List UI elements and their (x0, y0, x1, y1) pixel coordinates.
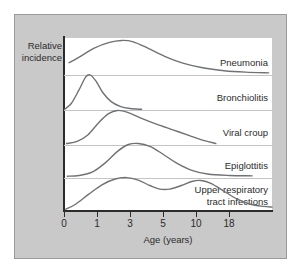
x-axis-label: Age (years) (64, 234, 272, 245)
x-tick-mark (163, 212, 164, 217)
band-separator (64, 178, 272, 179)
series-label: Viral croup (150, 127, 268, 139)
y-axis-line (63, 36, 65, 212)
x-tick-label: 3 (120, 218, 140, 229)
x-tick-mark (196, 212, 197, 217)
band-separator (64, 75, 272, 76)
series-label: Bronchiolitis (150, 92, 268, 104)
series-label: Upper respiratorytract infections (150, 184, 268, 207)
y-axis-label-line2: incidence (16, 52, 62, 64)
y-axis-label-line1: Relative (16, 40, 62, 52)
x-tick-mark (229, 212, 230, 217)
x-tick-label: 10 (186, 218, 206, 229)
series-label: Epiglottitis (150, 160, 268, 172)
x-tick-label: 18 (219, 218, 239, 229)
series-label-line1: Upper respiratory (150, 184, 268, 196)
x-tick-label: 1 (87, 218, 107, 229)
x-axis-line (63, 210, 273, 212)
x-tick-label: 0 (54, 218, 74, 229)
x-tick-label: 5 (153, 218, 173, 229)
y-axis-label: Relative incidence (16, 40, 62, 63)
x-tick-mark (64, 212, 65, 217)
x-tick-mark (130, 212, 131, 217)
series-label-line2: tract infections (150, 196, 268, 208)
x-tick-mark (97, 212, 98, 217)
band-separator (64, 110, 272, 111)
figure-container: Relative incidence Age (years) 01351018 … (0, 0, 303, 276)
band-separator (64, 145, 272, 146)
series-label: Pneumonia (150, 57, 268, 69)
